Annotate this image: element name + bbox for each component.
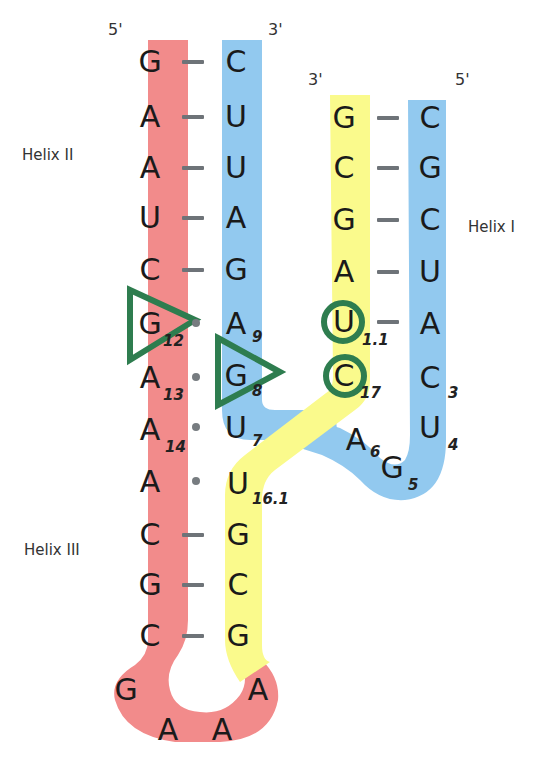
base-pair-bond: [377, 270, 399, 274]
nucleotide: U: [225, 153, 247, 183]
helix-iii-label: Helix III: [24, 543, 80, 558]
nucleotide: G: [226, 621, 249, 651]
nucleotide-u16-1: U: [227, 469, 249, 499]
helix-ii-label: Helix II: [22, 148, 73, 163]
base-pair-bond: [182, 533, 204, 537]
index-12: 12: [163, 334, 184, 349]
nucleotide: U: [419, 257, 441, 287]
nucleotide: G: [332, 103, 355, 133]
nucleotide: A: [140, 467, 161, 497]
nucleotide: C: [140, 255, 161, 285]
base-pair-bond: [377, 166, 399, 170]
base-pair-bond: [377, 116, 399, 120]
nucleotide: A: [140, 153, 161, 183]
index-9: 9: [252, 330, 262, 345]
base-pair-bond: [182, 60, 204, 64]
index-16-1: 16.1: [252, 492, 289, 507]
index-4: 4: [448, 438, 458, 453]
nucleotide: C: [420, 103, 441, 133]
nucleotide: C: [140, 621, 161, 651]
nucleotide: G: [138, 570, 161, 600]
nucleotide: A: [140, 102, 161, 132]
loop-nucleotide: A: [212, 715, 233, 745]
base-pair-bond: [182, 115, 204, 119]
nucleotide: G: [138, 47, 161, 77]
nucleotide-a13: A: [140, 363, 161, 393]
yellow-strand-3prime-label: 3': [308, 72, 323, 88]
nucleotide-g5: G: [380, 453, 403, 483]
nucleotide-g8: G: [224, 361, 247, 391]
index-5: 5: [408, 478, 418, 493]
nucleotide: C: [334, 153, 355, 183]
nucleotide: U: [225, 102, 247, 132]
nucleotide: C: [140, 520, 161, 550]
nucleotide-u1-1: U: [333, 307, 355, 337]
blue-right-strand-5prime-label: 5': [455, 72, 470, 88]
nucleotide: C: [420, 205, 441, 235]
index-3: 3: [448, 386, 458, 401]
index-17: 17: [360, 386, 381, 401]
base-pair-bond: [377, 218, 399, 222]
nucleotide-g12: G: [138, 309, 161, 339]
nucleotide-a14: A: [140, 415, 161, 445]
nucleotide: A: [420, 309, 441, 339]
rna-secondary-structure-diagram: 5' 3' 3' 5' Helix II Helix I Helix III G…: [0, 0, 551, 769]
noncanonical-pair-dot: [192, 373, 200, 381]
base-pair-bond: [182, 268, 204, 272]
index-14: 14: [165, 440, 186, 455]
blue-strand-3prime-label: 3': [268, 22, 283, 38]
nucleotide-a9: A: [226, 309, 247, 339]
red-strand-5prime-label: 5': [108, 22, 123, 38]
nucleotide-a6: A: [346, 425, 367, 455]
noncanonical-pair-dot: [192, 477, 200, 485]
loop-nucleotide: A: [248, 675, 269, 705]
helix-i-label: Helix I: [468, 220, 515, 235]
nucleotide: A: [334, 257, 355, 287]
nucleotide: U: [139, 203, 161, 233]
base-pair-bond: [377, 320, 399, 324]
base-pair-bond: [182, 216, 204, 220]
nucleotide: A: [226, 203, 247, 233]
nucleotide: G: [332, 205, 355, 235]
nucleotide: G: [226, 520, 249, 550]
nucleotide-u4: U: [419, 413, 441, 443]
noncanonical-pair-dot: [192, 423, 200, 431]
nucleotide-c17: C: [334, 361, 355, 391]
nucleotide: G: [418, 153, 441, 183]
nucleotide-u7: U: [225, 413, 247, 443]
nucleotide: C: [226, 47, 247, 77]
nucleotide: C: [228, 570, 249, 600]
index-8: 8: [252, 384, 262, 399]
index-7: 7: [252, 434, 262, 449]
base-pair-bond: [182, 166, 204, 170]
nucleotide-c3: C: [420, 363, 441, 393]
loop-nucleotide: G: [114, 675, 137, 705]
index-1-1: 1.1: [362, 333, 389, 348]
index-6: 6: [370, 445, 380, 460]
base-pair-bond: [182, 583, 204, 587]
index-13: 13: [163, 388, 184, 403]
nucleotide: G: [224, 255, 247, 285]
strand-backbones: [0, 0, 551, 769]
noncanonical-pair-dot: [192, 319, 200, 327]
loop-nucleotide: A: [158, 715, 179, 745]
base-pair-bond: [182, 634, 204, 638]
